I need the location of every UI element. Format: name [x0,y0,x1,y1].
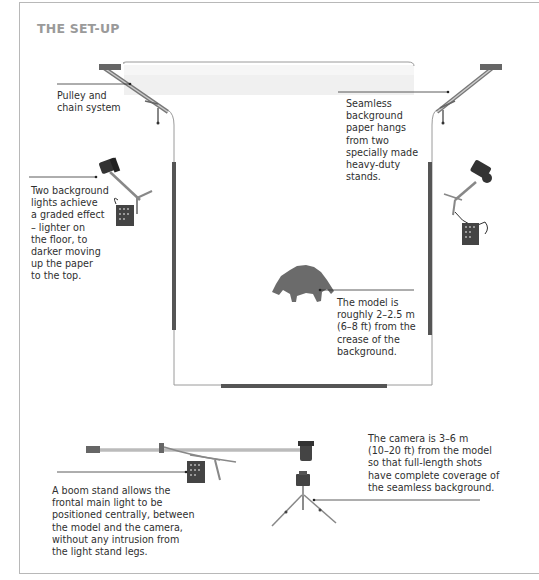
pulley-label: Pulley and chain system [57,90,121,114]
label-line: (10–20 ft) from the model [368,445,499,457]
label-line: from two [346,135,418,147]
label-line: to the top. [31,270,109,282]
label-line: crease of the [337,334,416,346]
label-line: heavy-duty [346,159,418,171]
floor-paper-bar [221,384,387,388]
label-line: The camera is 3–6 m [368,433,499,445]
label-line: the floor, to [31,234,109,246]
model-distance-label: The model is roughly 2–2.5 m (6–8 ft) fr… [337,297,416,358]
label-line: darker moving [31,246,109,258]
label-line: positioned centrally, between [52,509,194,521]
background-lights-label: Two background lights achieve a graded e… [31,185,109,283]
right-background-stand-icon [437,64,502,125]
label-line: The model is [337,297,416,309]
label-line: – lighter on [31,222,109,234]
right-stand-bar [428,162,432,335]
label-line: Two background [31,185,109,197]
camera-distance-label: The camera is 3–6 m (10–20 ft) from the … [368,433,499,494]
label-line: paper hangs [346,122,418,134]
model-silhouette-icon [272,265,334,302]
label-line: (6–8 ft) from the [337,321,416,333]
label-line: a graded effect [31,209,109,221]
label-line: specially made [346,147,418,159]
label-line: have complete coverage of [368,470,499,482]
boom-light-icon [86,441,314,483]
right-background-light-icon [444,159,492,245]
label-line: background. [337,346,416,358]
seamless-paper-label: Seamless background paper hangs from two… [346,98,418,183]
label-line: the light stand legs. [52,546,194,558]
label-line: stands. [346,171,418,183]
label-line: A boom stand allows the [52,485,194,497]
label-line: the model and the camera, [52,522,194,534]
label-line: background [346,110,418,122]
seamless-paper [123,62,414,95]
label-line: chain system [57,102,121,114]
label-line: Seamless [346,98,418,110]
label-line: lights achieve [31,197,109,209]
label-line: Pulley and [57,90,121,102]
label-line: roughly 2–2.5 m [337,309,416,321]
left-stand-bar [172,162,176,330]
label-line: the seamless background. [368,482,499,494]
boom-stand-label: A boom stand allows the frontal main lig… [52,485,194,558]
label-line: frontal main light to be [52,497,194,509]
label-line: so that full-length shots [368,457,499,469]
label-line: without any intrusion from [52,534,194,546]
label-line: up the paper [31,258,109,270]
camera-tripod-icon [272,471,336,526]
